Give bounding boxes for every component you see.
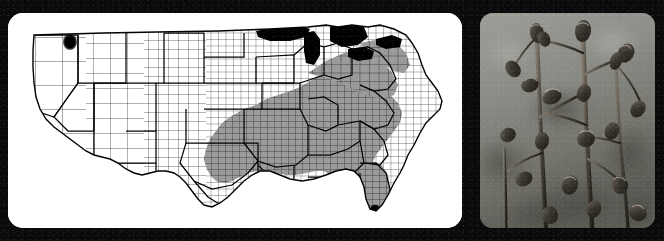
plant-photograph-panel [480, 13, 655, 228]
point-record-northern-rockies [63, 34, 77, 50]
plant-photograph-svg [480, 13, 655, 228]
county-distribution-map-svg [8, 13, 462, 228]
figure-root [0, 0, 664, 241]
county-distribution-map-panel [8, 13, 462, 228]
